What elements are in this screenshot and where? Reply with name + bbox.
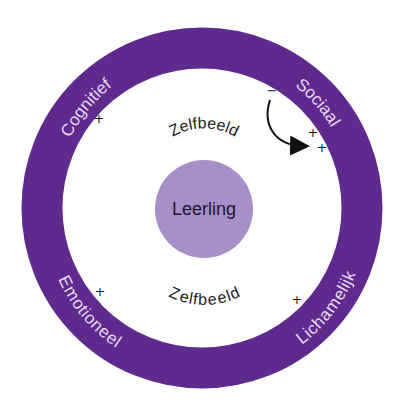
center-label: Leerling: [172, 199, 236, 219]
minus-mark-sociaal: −: [267, 83, 278, 98]
plus-mark-emotioneel: +: [95, 284, 106, 299]
self-image-label-top: Zelfbeeld: [166, 114, 241, 139]
self-image-label-bottom: Zelfbeeld: [167, 283, 242, 308]
plus-mark-sociaal-2: +: [317, 140, 328, 155]
plus-mark-lichamelijk: +: [292, 292, 303, 307]
plus-mark-sociaal-1: +: [308, 125, 319, 140]
plus-mark-cognitief: +: [94, 111, 105, 126]
self-image-diagram: Leerling Zelfbeeld Zelfbeeld Cognitief S…: [0, 0, 400, 413]
curved-arrow-icon: [268, 100, 302, 146]
